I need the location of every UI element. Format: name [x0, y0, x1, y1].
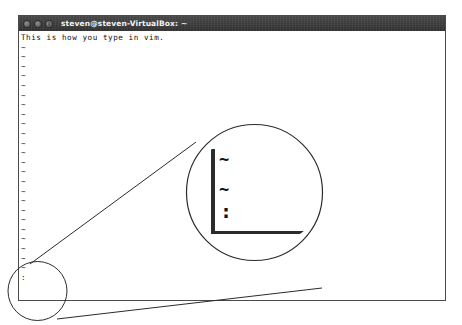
- vim-tilde-row: ~: [21, 81, 445, 91]
- vim-tilde-row: ~: [21, 119, 445, 129]
- vim-command-cursor: :: [21, 273, 445, 283]
- vim-tilde-row: ~: [21, 263, 445, 273]
- vim-tilde-row: ~: [21, 43, 445, 53]
- vim-tilde-row: ~: [21, 71, 445, 81]
- window-titlebar[interactable]: steven@steven-VirtualBox: ~: [19, 16, 445, 31]
- magnifier-inner: ~ ~ :: [186, 137, 323, 248]
- minimize-button-icon[interactable]: [23, 20, 31, 28]
- vim-tilde-row: ~: [21, 62, 445, 72]
- magnifier-content: ~ ~ :: [186, 137, 323, 248]
- close-button-icon[interactable]: [45, 20, 53, 28]
- vim-tilde-row: ~: [21, 52, 445, 62]
- magnified-tilde-first: ~: [219, 151, 229, 168]
- magnified-window-left-border: [211, 149, 215, 234]
- vim-tilde-row: ~: [21, 254, 445, 264]
- maximize-button-icon[interactable]: [34, 20, 42, 28]
- magnified-tilde-second: ~: [219, 181, 229, 198]
- vim-tilde-row: ~: [21, 100, 445, 110]
- vim-tilde-row: ~: [21, 110, 445, 120]
- window-title: steven@steven-VirtualBox: ~: [61, 19, 187, 28]
- vim-tilde-row: ~: [21, 91, 445, 101]
- magnified-cursor-colon: :: [220, 201, 232, 221]
- magnified-window-bottom-border: [211, 231, 323, 235]
- screenshot-canvas: steven@steven-VirtualBox: ~ This is how …: [0, 0, 462, 325]
- terminal-first-line: This is how you type in vim.: [21, 33, 445, 43]
